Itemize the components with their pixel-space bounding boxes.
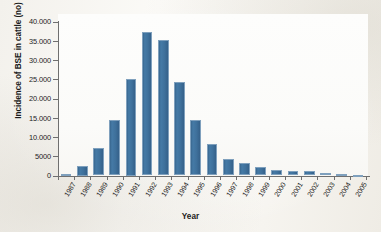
y-tick-mark [53, 22, 58, 23]
x-tick-label: 1987 [62, 181, 77, 198]
x-tick-label: 1989 [95, 181, 110, 198]
bar-1991 [126, 79, 137, 175]
y-tick-label: 30.000 [5, 56, 51, 65]
x-tick-label: 1995 [192, 181, 207, 198]
x-tick-mark [188, 176, 189, 180]
y-tick-label: 35.000 [5, 37, 51, 46]
y-tick-mark [53, 79, 58, 80]
y-tick-mark [53, 137, 58, 138]
x-tick-label: 2001 [289, 181, 304, 198]
bar-2000 [271, 170, 282, 175]
x-tick-label: 1997 [225, 181, 240, 198]
x-tick-mark [204, 176, 205, 180]
y-tick-label: 0 [5, 171, 51, 180]
bar-1999 [255, 167, 266, 176]
x-tick-label: 1992 [144, 181, 159, 198]
x-tick-mark [253, 176, 254, 180]
y-tick-label: 5000 [5, 152, 51, 161]
x-axis-line [58, 176, 370, 177]
bar-2001 [288, 171, 299, 176]
chart-figure: Incidence of BSE in cattle (no) 40.00035… [0, 0, 381, 232]
x-tick-mark [334, 176, 335, 180]
y-tick-label: 10.000 [5, 133, 51, 142]
x-tick-label: 1999 [257, 181, 272, 198]
x-tick-mark [317, 176, 318, 180]
y-tick-label: 20.000 [5, 94, 51, 103]
x-tick-mark [74, 176, 75, 180]
bar-2003 [320, 173, 331, 175]
bar-1989 [93, 148, 104, 176]
x-tick-label: 1998 [241, 181, 256, 198]
y-tick-label: 40.000 [5, 17, 51, 26]
x-tick-label: 1990 [111, 181, 126, 198]
x-tick-mark [58, 176, 59, 180]
y-tick-mark [53, 156, 58, 157]
bar-1987 [61, 174, 72, 176]
bar-1988 [77, 166, 88, 176]
bar-1992 [142, 32, 153, 176]
bar-1993 [158, 40, 169, 175]
bar-1997 [223, 159, 234, 176]
x-tick-label: 1996 [208, 181, 223, 198]
bar-2002 [304, 171, 315, 175]
x-tick-mark [236, 176, 237, 180]
x-tick-label: 2005 [354, 181, 369, 198]
y-axis-line [58, 21, 59, 176]
x-tick-label: 2004 [338, 181, 353, 198]
x-tick-label: 1988 [79, 181, 94, 198]
x-tick-label: 2003 [322, 181, 337, 198]
x-tick-label: 2000 [273, 181, 288, 198]
x-tick-mark [220, 176, 221, 180]
bar-1994 [174, 82, 185, 176]
x-axis-title: Year [0, 212, 381, 221]
y-tick-mark [53, 60, 58, 61]
y-tick-mark [53, 118, 58, 119]
x-tick-mark [366, 176, 367, 180]
x-tick-mark [107, 176, 108, 180]
x-tick-label: 1993 [160, 181, 175, 198]
bar-2005 [353, 175, 364, 177]
x-tick-mark [269, 176, 270, 180]
x-tick-mark [350, 176, 351, 180]
x-tick-mark [301, 176, 302, 180]
y-tick-label: 25.000 [5, 75, 51, 84]
bar-1995 [190, 120, 201, 176]
x-tick-mark [155, 176, 156, 180]
bar-1996 [207, 144, 218, 175]
y-tick-label: 15.000 [5, 114, 51, 123]
bar-1990 [109, 120, 120, 175]
x-tick-mark [285, 176, 286, 180]
y-tick-mark [53, 99, 58, 100]
y-tick-mark [53, 41, 58, 42]
x-tick-mark [123, 176, 124, 180]
x-tick-label: 1991 [127, 181, 142, 198]
x-tick-mark [171, 176, 172, 180]
x-tick-mark [139, 176, 140, 180]
x-tick-mark [90, 176, 91, 180]
bar-2004 [336, 174, 347, 176]
x-tick-label: 1994 [176, 181, 191, 198]
bar-1998 [239, 163, 250, 175]
x-tick-label: 2002 [306, 181, 321, 198]
